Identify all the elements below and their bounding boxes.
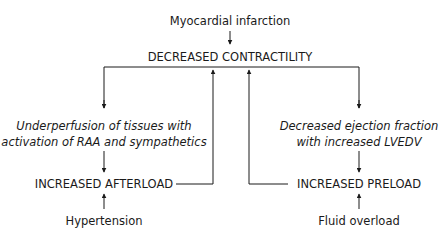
node-fluid-overload: Fluid overload [318,214,399,228]
node-hypertension: Hypertension [66,214,143,228]
node-increased-preload: INCREASED PRELOAD [297,177,421,191]
node-left-mechanism-line2: activation of RAA and sympathetics [1,134,206,150]
node-decreased-contractility: DECREASED CONTRACTILITY [148,50,313,64]
node-right-mechanism-line2: with increased LVEDV [296,134,421,150]
node-myocardial-infarction: Myocardial infarction [170,14,290,28]
node-left-mechanism-line1: Underperfusion of tissues with [16,118,191,134]
bracket-top [104,67,359,108]
node-increased-afterload: INCREASED AFTERLOAD [35,177,173,191]
node-right-mechanism-line1: Decreased ejection fraction [280,118,439,134]
